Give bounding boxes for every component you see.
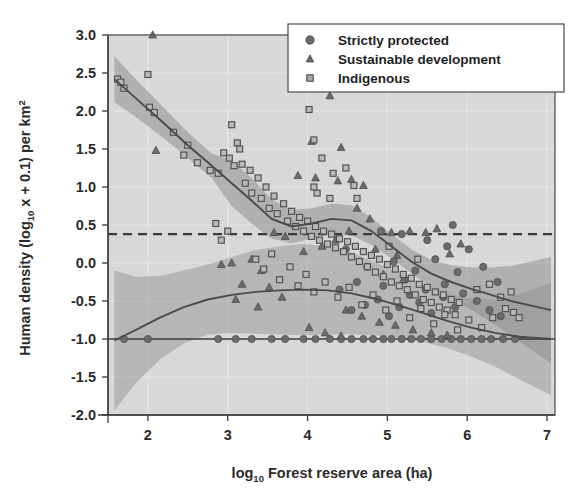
data-point-circle <box>388 335 395 342</box>
data-point-circle <box>465 246 472 253</box>
data-point-circle <box>441 281 448 288</box>
data-point-circle <box>326 335 333 342</box>
data-point-square <box>503 306 509 312</box>
data-point-square <box>360 249 366 255</box>
data-point-square <box>271 193 277 199</box>
data-point-square <box>237 146 243 152</box>
y-tick-label: -1.0 <box>71 331 96 347</box>
data-point-circle <box>268 335 275 342</box>
data-point-square <box>231 163 237 169</box>
data-point-square <box>383 307 389 313</box>
scatter-plot-figure: 234567 -2.0-1.5-1.0-0.50.00.51.01.52.02.… <box>0 0 581 497</box>
data-point-square <box>448 297 454 303</box>
data-point-square <box>325 241 331 247</box>
data-point-square <box>329 231 335 237</box>
data-point-square <box>145 72 151 78</box>
data-point-square <box>242 180 248 186</box>
data-point-square <box>225 228 231 234</box>
data-point-square <box>404 287 410 293</box>
data-point-square <box>416 281 422 287</box>
square-marker-icon <box>307 75 313 81</box>
legend-item-label: Strictly protected <box>338 33 449 48</box>
data-point-circle <box>390 258 397 265</box>
data-point-square <box>346 284 352 290</box>
data-point-square <box>218 237 224 243</box>
data-point-square <box>317 237 323 243</box>
data-point-circle <box>486 307 493 314</box>
data-point-circle <box>398 335 405 342</box>
data-point-square <box>352 243 358 249</box>
x-tick-label: 6 <box>463 427 471 443</box>
data-point-circle <box>497 313 504 320</box>
data-point-circle <box>457 335 464 342</box>
data-point-circle <box>385 313 392 320</box>
data-point-circle <box>473 297 480 304</box>
data-point-square <box>368 252 374 258</box>
data-point-square <box>229 122 235 128</box>
y-tick-label: 2.0 <box>76 103 96 119</box>
x-tick-label: 5 <box>383 427 391 443</box>
data-point-square <box>247 167 253 173</box>
data-point-square <box>327 195 333 201</box>
data-point-square <box>321 228 327 234</box>
data-point-circle <box>478 335 485 342</box>
data-point-square <box>335 294 341 300</box>
data-point-square <box>351 183 357 189</box>
data-point-square <box>289 208 295 214</box>
data-point-square <box>194 160 200 166</box>
data-point-square <box>263 184 269 190</box>
circle-marker-icon <box>306 36 314 44</box>
data-point-circle <box>488 335 495 342</box>
data-point-square <box>306 107 312 113</box>
data-point-square <box>345 239 351 245</box>
data-point-square <box>456 300 462 306</box>
data-point-square <box>266 205 272 211</box>
data-point-square <box>253 256 259 262</box>
x-tick-label: 2 <box>144 427 152 443</box>
data-point-square <box>258 195 264 201</box>
data-point-square <box>239 161 245 167</box>
data-point-circle <box>468 335 475 342</box>
data-point-circle <box>282 335 289 342</box>
data-point-circle <box>480 263 487 270</box>
data-point-square <box>295 283 301 289</box>
data-point-square <box>415 256 421 262</box>
data-point-circle <box>428 335 435 342</box>
data-point-square <box>249 190 255 196</box>
data-point-square <box>359 302 365 308</box>
data-point-square <box>287 264 293 270</box>
data-point-circle <box>444 243 451 250</box>
data-point-circle <box>398 231 405 238</box>
y-tick-label: 0.5 <box>76 217 96 233</box>
data-point-square <box>420 297 426 303</box>
data-point-square <box>213 221 219 227</box>
data-point-square <box>407 315 413 321</box>
data-point-square <box>314 190 320 196</box>
data-point-circle <box>408 335 415 342</box>
data-point-square <box>337 236 343 242</box>
data-point-square <box>455 327 461 333</box>
data-point-square <box>356 259 362 265</box>
data-point-square <box>319 155 325 161</box>
data-point-square <box>392 266 398 272</box>
data-point-circle <box>500 335 507 342</box>
chart-canvas: 234567 -2.0-1.5-1.0-0.50.00.51.01.52.02.… <box>0 0 581 497</box>
data-point-circle <box>494 278 501 285</box>
data-point-square <box>394 298 400 304</box>
y-tick-label: 1.0 <box>76 179 96 195</box>
data-point-square <box>428 300 434 306</box>
data-point-square <box>207 167 213 173</box>
data-point-square <box>466 317 472 323</box>
data-point-circle <box>300 335 307 342</box>
data-point-square <box>424 284 430 290</box>
x-tick-label: 7 <box>543 427 551 443</box>
legend-item-label: Indigenous <box>338 71 410 86</box>
data-point-circle <box>432 256 439 263</box>
data-point-square <box>432 289 438 295</box>
data-point-square <box>364 264 370 270</box>
data-point-square <box>354 195 360 201</box>
data-point-square <box>255 175 261 181</box>
data-point-circle <box>232 335 239 342</box>
data-point-square <box>181 152 187 158</box>
data-point-square <box>452 312 458 318</box>
